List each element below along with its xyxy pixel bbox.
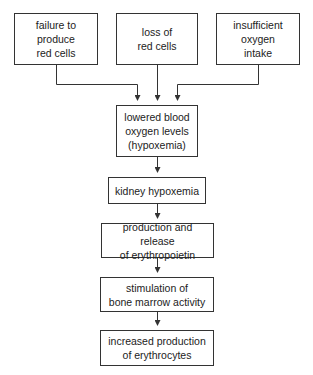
step-erythrocytes-label: increased production of erythrocytes [108, 334, 205, 362]
edge-failure-to-hypoxemia [57, 64, 138, 100]
step-hypoxemia-label: lowered blood oxygen levels (hypoxemia) [124, 110, 189, 152]
step-kidney-label: kidney hypoxemia [115, 184, 199, 198]
step-erythropoietin-box: production and release of erythropoietin [101, 223, 214, 258]
step-erythrocytes-box: increased production of erythrocytes [100, 330, 214, 366]
cause-insufficient-box: insufficient oxygen intake [216, 13, 300, 65]
step-kidney-box: kidney hypoxemia [108, 177, 206, 204]
edge-insufficient-to-hypoxemia [178, 64, 259, 100]
step-erythropoietin-label: production and release of erythropoietin [106, 220, 209, 262]
cause-failure-box: failure to produce red cells [14, 13, 98, 65]
cause-loss-label: loss of red cells [137, 25, 176, 53]
step-bone-marrow-label: stimulation of bone marrow activity [109, 281, 205, 309]
step-hypoxemia-box: lowered blood oxygen levels (hypoxemia) [116, 105, 198, 157]
cause-loss-box: loss of red cells [116, 13, 198, 65]
step-bone-marrow-box: stimulation of bone marrow activity [100, 277, 214, 312]
cause-failure-label: failure to produce red cells [36, 18, 76, 60]
cause-insufficient-label: insufficient oxygen intake [233, 18, 282, 60]
